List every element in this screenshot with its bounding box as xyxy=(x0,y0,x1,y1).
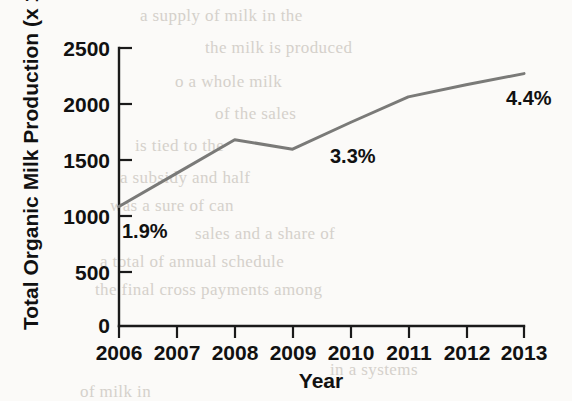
y-tick-label-2000: 2000 xyxy=(63,93,110,116)
y-tick-label-2500: 2500 xyxy=(63,37,110,60)
annotation-3-3-percent: 3.3% xyxy=(330,145,376,167)
y-tick-label-0: 0 xyxy=(98,314,110,337)
y-tick-label-500: 500 xyxy=(75,261,110,284)
x-tick-label-2013: 2013 xyxy=(501,341,548,364)
y-axis-title-main: Total Organic Milk Production (x 10 xyxy=(19,0,42,330)
x-tick-label-2012: 2012 xyxy=(444,341,491,364)
annotation-4-4-percent: 4.4% xyxy=(506,87,552,109)
x-tick-label-2008: 2008 xyxy=(212,341,259,364)
chart-svg: Total Organic Milk Production (x 106 lb)… xyxy=(0,0,572,401)
y-tick-label-1500: 1500 xyxy=(63,149,110,172)
x-tick-label-2007: 2007 xyxy=(154,341,201,364)
x-tick-label-2006: 2006 xyxy=(96,341,143,364)
x-tick-label-2009: 2009 xyxy=(270,341,317,364)
data-series-line xyxy=(119,74,524,207)
x-axis-title: Year xyxy=(299,369,343,392)
y-tick-label-1000: 1000 xyxy=(63,205,110,228)
annotation-1-9-percent: 1.9% xyxy=(122,220,168,242)
x-tick-label-2011: 2011 xyxy=(386,341,432,364)
y-axis-title: Total Organic Milk Production (x 106 lb) xyxy=(17,0,42,330)
figure-container: a supply of milk in the the milk is prod… xyxy=(0,0,572,401)
x-tick-label-2010: 2010 xyxy=(328,341,375,364)
